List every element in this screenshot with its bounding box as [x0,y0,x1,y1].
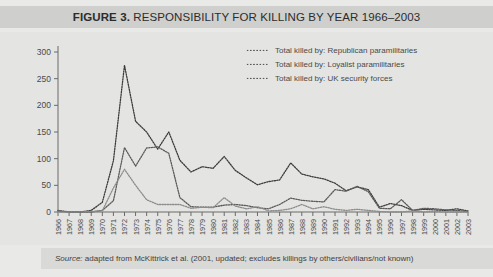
x-axis-tick-label: 1980 [209,219,218,235]
x-axis-tick-label: 2001 [442,219,451,235]
page-title: FIGURE 3. RESPONSIBILITY FOR KILLING BY … [73,11,420,23]
x-axis-tick-label: 1967 [65,219,74,235]
x-axis-tick-label: 1981 [220,219,229,235]
x-axis-tick-label: 1994 [364,219,373,235]
x-axis-tick-label: 2000 [431,219,440,235]
y-axis-tick-label: 50 [42,180,52,190]
x-axis-tick-label: 1975 [154,219,163,235]
x-axis-tick-label: 1985 [265,219,274,235]
figure-caption: RESPONSIBILITY FOR KILLING BY YEAR 1966–… [133,11,420,23]
x-axis-tick-label: 1989 [309,219,318,235]
y-axis-tick-label: 300 [37,47,51,57]
x-axis-tick-label: 1984 [253,219,262,235]
x-axis-tick-label: 2002 [453,219,462,235]
x-axis-tick-label: 1995 [375,219,384,235]
x-axis-tick-label: 1972 [120,219,129,235]
data-series-group [58,65,468,212]
x-axis-tick-label: 1988 [298,219,307,235]
x-axis-tick-label: 1998 [409,219,418,235]
x-axis-tick-label: 1976 [165,219,174,235]
chart-panel: Total killed by: Republican paramilitari… [0,32,493,245]
x-axis-tick-label: 1992 [342,219,351,235]
x-axis-tick-label: 1971 [109,219,118,235]
x-axis-tick-label: 1982 [231,219,240,235]
x-axis: 1966196719681969197019711972197319741975… [54,212,473,235]
y-axis: 050100150200250300 [37,46,58,217]
x-axis-tick-label: 1973 [132,219,141,235]
figure-container: FIGURE 3. RESPONSIBILITY FOR KILLING BY … [0,0,493,277]
source-note: Source: adapted from McKittrick et al. (… [41,254,413,263]
x-axis-tick-label: 1991 [331,219,340,235]
x-axis-tick-label: 1990 [320,219,329,235]
x-axis-tick-label: 1977 [176,219,185,235]
y-axis-tick-label: 150 [37,127,51,137]
source-label: Source: [55,254,83,263]
x-axis-tick-label: 1983 [242,219,251,235]
x-axis-tick-label: 1966 [54,219,63,235]
x-axis-tick-label: 2003 [464,219,473,235]
x-axis-tick-label: 1974 [143,219,152,235]
figure-number: FIGURE 3. [73,11,130,23]
series-line-loyalist [58,147,468,212]
source-body: adapted from McKittrick et al. (2001, up… [85,254,414,263]
x-axis-tick-label: 1970 [98,219,107,235]
y-axis-tick-label: 200 [37,100,51,110]
y-axis-tick-label: 100 [37,154,51,164]
x-axis-tick-label: 1997 [398,219,407,235]
series-line-republican [58,65,468,212]
x-axis-tick-label: 1979 [198,219,207,235]
x-axis-tick-label: 1999 [420,219,429,235]
x-axis-tick-label: 1968 [76,219,85,235]
x-axis-tick-label: 1987 [287,219,296,235]
series-line-uk-security [58,169,468,212]
source-note-bar: Source: adapted from McKittrick et al. (… [41,248,493,269]
x-axis-tick-label: 1993 [353,219,362,235]
x-axis-tick-label: 1986 [276,219,285,235]
y-axis-tick-label: 250 [37,74,51,84]
y-axis-tick-label: 0 [46,207,51,217]
x-axis-tick-label: 1978 [187,219,196,235]
x-axis-tick-label: 1996 [386,219,395,235]
figure-title-bar: FIGURE 3. RESPONSIBILITY FOR KILLING BY … [0,6,493,28]
x-axis-tick-label: 1969 [87,219,96,235]
chart-plot-area: 050100150200250300 196619671968196919701… [0,32,493,245]
